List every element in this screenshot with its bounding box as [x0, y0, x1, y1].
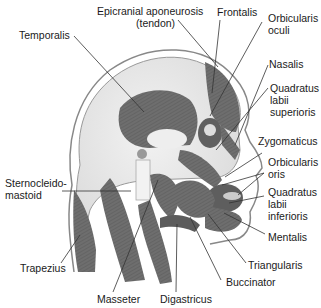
label-epicranial-tendon: (tendon): [136, 18, 175, 29]
label-sternocleidomastoid-1: Sternocleido-: [5, 178, 67, 189]
label-orbicularis-oculi-1: Orbicularis: [268, 13, 318, 24]
label-quadratus-superioris-2: labii: [270, 95, 289, 106]
label-quadratus-inferioris-2: labii: [268, 199, 287, 210]
label-frontalis: Frontalis: [217, 7, 257, 18]
label-orbicularis-oculi-2: oculi: [268, 25, 290, 36]
label-zygomaticus: Zygomaticus: [258, 136, 318, 147]
label-epicranial-aponeurosis: Epicranial aponeurosis: [97, 6, 203, 17]
label-quadratus-superioris-1: Quadratus: [270, 83, 319, 94]
label-orbicularis-oris-1: Orbicularis: [268, 157, 318, 168]
ear: [137, 149, 147, 159]
label-orbicularis-oris-2: oris: [268, 169, 285, 180]
label-quadratus-inferioris-1: Quadratus: [268, 187, 317, 198]
label-trapezius: Trapezius: [20, 263, 66, 274]
label-quadratus-inferioris-3: inferioris: [268, 211, 308, 222]
head-neck-muscle-diagram: Epicranial aponeurosis (tendon) Frontali…: [0, 0, 321, 308]
masseter-muscle: [150, 174, 180, 220]
digastricus-muscle: [160, 215, 200, 232]
label-triangularis: Triangularis: [248, 260, 302, 271]
label-temporalis: Temporalis: [19, 30, 70, 41]
label-buccinator: Buccinator: [226, 277, 276, 288]
label-masseter: Masseter: [97, 294, 140, 305]
label-mentalis: Mentalis: [268, 232, 307, 243]
label-digastricus: Digastricus: [160, 294, 212, 305]
label-nasalis: Nasalis: [269, 59, 303, 70]
label-quadratus-superioris-3: superioris: [270, 107, 316, 118]
label-sternocleidomastoid-2: mastoid: [5, 190, 42, 201]
